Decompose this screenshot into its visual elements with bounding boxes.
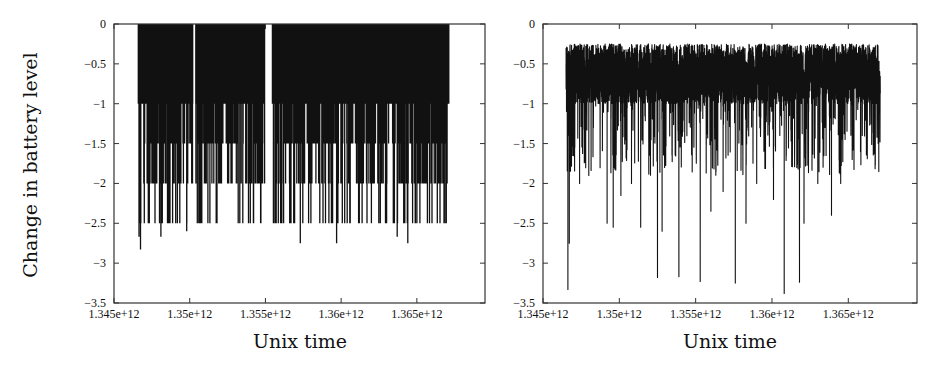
chart-right-battery-change-continuous: 0−0.5−1−1.5−2−2.5−3−3.51.345e+121.35e+12…	[490, 0, 950, 330]
y-tick-label: −1	[93, 97, 106, 111]
y-tick-label: −3	[93, 256, 106, 270]
x-tick-label: 1.365e+12	[823, 307, 874, 321]
x-tick-label: 1.355e+12	[670, 307, 721, 321]
y-tick-label: 0	[529, 17, 535, 31]
y-tick-label: −0.5	[513, 57, 535, 71]
x-tick-label: 1.355e+12	[240, 307, 291, 321]
right-series-line	[566, 44, 880, 294]
y-tick-label: −1.5	[513, 137, 535, 151]
y-tick-label: −2.5	[84, 216, 106, 230]
x-tick-label: 1.36e+12	[749, 307, 794, 321]
x-tick-label: 1.365e+12	[391, 307, 442, 321]
x-axis-label-left: Unix time	[253, 330, 347, 352]
y-tick-label: −1.5	[84, 137, 106, 151]
y-tick-label: 0	[100, 17, 106, 31]
y-tick-label: −2	[93, 176, 106, 190]
y-tick-label: −2	[522, 176, 535, 190]
x-tick-label: 1.36e+12	[319, 307, 364, 321]
x-tick-label: 1.35e+12	[597, 307, 642, 321]
x-tick-label: 1.345e+12	[517, 307, 568, 321]
x-tick-label: 1.35e+12	[167, 307, 212, 321]
y-tick-label: −3	[522, 256, 535, 270]
x-axis-label-right: Unix time	[683, 330, 777, 352]
y-tick-label: −0.5	[84, 57, 106, 71]
y-tick-label: −1	[522, 97, 535, 111]
chart-left-battery-change-spikes: 0−0.5−1−1.5−2−2.5−3−3.51.345e+121.35e+12…	[0, 0, 500, 330]
x-tick-label: 1.345e+12	[88, 307, 139, 321]
left-series-line	[138, 24, 449, 250]
y-tick-label: −2.5	[513, 216, 535, 230]
